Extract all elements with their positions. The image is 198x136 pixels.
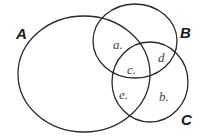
set-b-label: B <box>180 24 191 41</box>
region-d-label: d <box>158 50 165 65</box>
region-a-label: a. <box>113 37 123 52</box>
venn-diagram: A B C a. c. d e. b. <box>0 0 198 136</box>
set-a-label: A <box>15 25 27 42</box>
region-c-label: c. <box>127 62 136 77</box>
region-b-label: b. <box>159 89 169 104</box>
set-c-label: C <box>181 111 193 128</box>
region-e-label: e. <box>119 87 128 102</box>
